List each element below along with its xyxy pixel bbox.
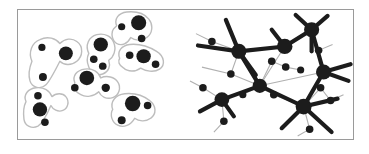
cluster-diagram-svg	[18, 10, 186, 139]
hub-node	[231, 44, 246, 59]
leaf-edge	[259, 72, 323, 86]
cluster-group	[71, 69, 119, 98]
cluster-node	[94, 37, 108, 51]
hub-node	[304, 22, 319, 37]
cluster-outline	[74, 69, 120, 98]
leaf-node	[227, 70, 235, 77]
cluster-node	[131, 15, 146, 30]
leaf-node	[281, 63, 289, 70]
leaf-node	[316, 84, 324, 91]
cluster-node	[138, 35, 146, 42]
hub-node	[276, 39, 292, 54]
leaf-node	[199, 84, 207, 91]
hub-node	[252, 79, 266, 93]
cluster-node	[90, 55, 98, 62]
cluster-node	[79, 71, 94, 86]
cluster-node	[125, 96, 141, 111]
leaf-node	[220, 118, 228, 125]
cluster-node	[38, 44, 45, 51]
cluster-node	[136, 49, 150, 63]
cluster-node	[33, 102, 47, 116]
cluster-node	[71, 84, 79, 91]
leaf-node	[314, 47, 322, 54]
cluster-node	[41, 119, 49, 126]
figure-frame	[17, 9, 354, 140]
cluster-outline	[112, 12, 152, 45]
cluster-node	[99, 62, 107, 69]
cluster-group	[112, 12, 152, 45]
cluster-node	[118, 116, 126, 124]
cluster-group	[119, 44, 164, 71]
leaf-node	[239, 91, 246, 98]
cluster-node	[102, 84, 110, 92]
clustered-nodes-panel	[18, 10, 186, 139]
cluster-node	[126, 52, 134, 59]
network-graph-panel	[186, 10, 354, 139]
network-diagram-svg	[186, 10, 354, 139]
cluster-group	[111, 94, 155, 127]
leaf-node	[208, 38, 216, 45]
cluster-node	[152, 60, 160, 67]
hub-node	[214, 92, 229, 107]
cluster-node	[39, 73, 47, 81]
cluster-node	[144, 102, 152, 109]
hub-node	[295, 99, 311, 115]
figure-root	[0, 0, 369, 154]
leaf-node	[297, 67, 304, 74]
leaf-node	[326, 97, 334, 104]
leaf-node	[267, 57, 275, 64]
cluster-node	[34, 92, 42, 99]
cluster-node	[59, 46, 73, 60]
leaf-edge-spur	[201, 67, 230, 74]
cluster-group	[24, 88, 68, 128]
leaf-node	[305, 125, 313, 132]
hub-node	[316, 65, 331, 80]
cluster-group	[87, 34, 115, 75]
leaf-node	[269, 91, 277, 98]
cluster-node	[118, 23, 125, 30]
